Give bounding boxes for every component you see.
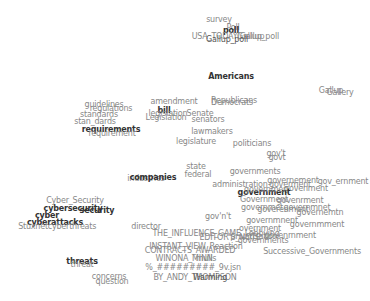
word-label: Gallup_poll: [206, 36, 248, 44]
word-label: Legislation: [146, 114, 187, 122]
word-label: gov'n't: [205, 213, 231, 221]
word-label: Gallery: [326, 89, 353, 97]
word-label: amendment: [151, 98, 198, 106]
word-label: mulls: [196, 255, 216, 263]
word-label: politicians: [233, 140, 271, 148]
word-label: Stuxnet: [18, 223, 48, 231]
word-label: legislature: [176, 138, 216, 146]
word-label: governments: [238, 237, 289, 245]
word-label: Successive_Governments: [263, 248, 361, 256]
word-label: Americans: [208, 73, 253, 81]
word-label: Democrats: [211, 99, 253, 107]
word-label: senators: [192, 116, 225, 124]
word-label: governmen: [244, 186, 288, 194]
word-label: governemtn: [297, 209, 344, 217]
embedding-scatter-plot: surveyPollpollUSA_TODAY/GallupGallup_pol…: [0, 0, 370, 301]
word-label: governmment: [290, 221, 344, 229]
word-label: govt: [268, 154, 285, 162]
word-label: Warming: [193, 274, 227, 282]
word-label: threat: [70, 261, 93, 269]
word-label: govenment: [284, 185, 328, 193]
word-label: governments: [230, 168, 281, 176]
word-label: question: [96, 278, 129, 286]
word-label: cyberthreats: [48, 223, 96, 231]
word-label: %_#########_9v.jsn: [145, 264, 241, 272]
word-label: companies: [130, 174, 177, 182]
word-label: lawmakers: [191, 128, 232, 136]
word-label: requirement: [88, 130, 135, 138]
word-label: security: [80, 207, 115, 215]
word-label: federal: [185, 171, 212, 179]
